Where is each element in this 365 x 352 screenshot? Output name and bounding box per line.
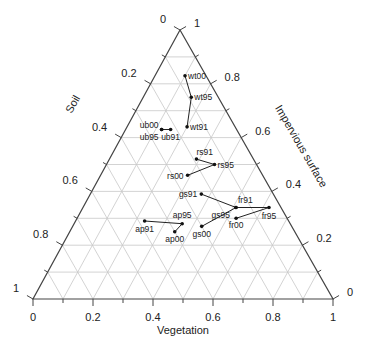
left-axis-label: Soil [63, 93, 83, 115]
grid-line [165, 57, 303, 299]
point-wt95 [189, 95, 193, 99]
right-tick [241, 134, 247, 138]
point-label-ap95: ap95 [173, 210, 192, 220]
left-tick-label: 0.6 [63, 174, 78, 186]
right-tick-label: 0 [347, 286, 353, 298]
right-tick [287, 216, 290, 218]
right-axis-label: Impervious surface [273, 103, 330, 189]
bottom-axis-label: Vegetation [157, 324, 209, 336]
right-tick [333, 296, 339, 300]
point-label-ub95: ub95 [140, 132, 159, 142]
point-rs95 [213, 163, 217, 167]
left-tick [115, 134, 121, 138]
right-tick-label: 1 [194, 17, 200, 29]
point-rs91 [195, 157, 199, 161]
grid-line [303, 272, 318, 299]
right-tick [302, 242, 308, 246]
point-ub00 [160, 128, 164, 132]
point-label-ub91: ub91 [161, 132, 180, 142]
grid-line [48, 272, 63, 299]
point-label-wt95: wt95 [193, 92, 212, 102]
point-rs00 [186, 173, 190, 177]
left-tick [74, 216, 77, 218]
point-label-gs00: gs00 [192, 229, 211, 239]
right-tick [272, 188, 278, 192]
right-tick [180, 27, 186, 31]
point-label-wt00: wt00 [187, 71, 206, 81]
left-tick [44, 270, 47, 272]
right-tick-label: 0.4 [286, 178, 301, 190]
left-tick [174, 27, 180, 31]
point-ap91 [143, 219, 147, 223]
right-tick [211, 80, 217, 84]
point-label-fr91: fr91 [238, 195, 253, 205]
right-tick [318, 270, 321, 272]
right-tick [257, 163, 260, 165]
right-tick-label: 0.8 [225, 71, 240, 83]
trail-wt [185, 76, 191, 127]
bottom-tick-label: 0.6 [205, 311, 220, 323]
point-label-gs95: gs95 [212, 210, 231, 220]
bottom-tick-label: 0.4 [145, 311, 160, 323]
left-tick [145, 80, 151, 84]
bottom-tick-label: 0.8 [265, 311, 280, 323]
point-wt91 [185, 125, 189, 129]
right-tick [226, 109, 229, 111]
point-label-rs95: rs95 [218, 160, 235, 170]
point-label-fr00: fr00 [229, 220, 244, 230]
left-tick [27, 296, 33, 300]
point-gs00 [200, 225, 204, 229]
point-label-fr95: fr95 [262, 211, 277, 221]
left-tick-label: 0.8 [33, 228, 48, 240]
left-tick [132, 109, 135, 111]
left-tick-label: 0.4 [92, 121, 107, 133]
point-gs91 [200, 192, 204, 196]
point-fr95 [267, 206, 271, 210]
point-label-gs91: gs91 [179, 189, 198, 199]
left-tick-label: 0 [160, 13, 166, 25]
right-tick-label: 0.2 [316, 232, 331, 244]
point-label-wt91: wt91 [189, 122, 208, 132]
point-label-ap91: ap91 [135, 224, 154, 234]
left-tick [86, 188, 92, 192]
point-wt00 [183, 74, 187, 78]
axis-ticks: 0000.20.20.20.40.40.40.60.60.60.80.80.81… [13, 13, 353, 323]
point-label-ap00: ap00 [165, 234, 184, 244]
left-tick-label: 0.2 [121, 67, 136, 79]
point-ap95 [180, 222, 184, 226]
point-label-rs00: rs00 [167, 171, 184, 181]
data-points: wt91wt95wt00ub91ub95ub00rs91rs95rs00gs91… [135, 71, 276, 244]
left-tick-label: 1 [13, 282, 19, 294]
left-tick [162, 55, 165, 57]
point-label-ub00: ub00 [140, 120, 159, 130]
left-tick [56, 242, 62, 246]
ternary-diagram: 0000.20.20.20.40.40.40.60.60.60.80.80.81… [0, 0, 365, 352]
bottom-tick-label: 0.2 [85, 311, 100, 323]
left-tick [103, 163, 106, 165]
bottom-tick-label: 1 [330, 311, 336, 323]
right-tick [195, 55, 198, 57]
point-label-rs91: rs91 [196, 147, 213, 157]
right-tick-label: 0.6 [255, 125, 270, 137]
bottom-tick-label: 0 [30, 311, 36, 323]
point-fr91 [234, 206, 238, 210]
